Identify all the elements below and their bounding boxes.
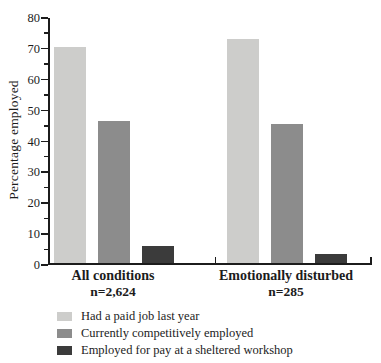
y-axis-label-20: 20 bbox=[6, 196, 40, 210]
y-axis-tick-30 bbox=[41, 171, 48, 173]
y-axis-tick-35 bbox=[44, 156, 48, 158]
legend-label: Had a paid job last year bbox=[81, 309, 199, 324]
bar-emotionally-disturbed-currently-competitively-employed bbox=[271, 124, 303, 263]
bar-emotionally-disturbed-employed-for-pay-at-a-sheltered-workshop bbox=[315, 254, 347, 263]
x-category-all-conditions: All conditions n=2,624 bbox=[72, 268, 155, 299]
category-n-label: n=285 bbox=[219, 284, 353, 299]
y-axis-label-30: 30 bbox=[6, 165, 40, 179]
y-axis-tick-10 bbox=[41, 233, 48, 235]
y-axis-tick-65 bbox=[44, 63, 48, 65]
legend-swatch-icon bbox=[57, 329, 72, 338]
legend-label: Currently competitively employed bbox=[81, 326, 253, 341]
category-label: All conditions bbox=[72, 268, 155, 284]
y-axis-tick-70 bbox=[41, 48, 48, 50]
y-axis-tick-60 bbox=[41, 79, 48, 81]
y-axis-tick-75 bbox=[44, 32, 48, 34]
y-axis-tick-40 bbox=[41, 141, 48, 143]
y-axis-label-40: 40 bbox=[6, 135, 40, 149]
y-axis-tick-5 bbox=[44, 249, 48, 251]
bar-emotionally-disturbed-had-a-paid-job-last-year bbox=[227, 39, 259, 263]
y-axis-label-10: 10 bbox=[6, 227, 40, 241]
bar-all-conditions-had-a-paid-job-last-year bbox=[54, 47, 86, 263]
plot-area: 01020304050607080 bbox=[48, 18, 372, 265]
category-n-label: n=2,624 bbox=[72, 284, 155, 299]
x-axis-end-tick bbox=[370, 257, 372, 263]
y-axis-label-50: 50 bbox=[6, 104, 40, 118]
y-axis-label-0: 0 bbox=[6, 258, 40, 272]
y-axis-tick-45 bbox=[44, 125, 48, 127]
y-axis-label-60: 60 bbox=[6, 73, 40, 87]
legend-swatch-icon bbox=[57, 312, 72, 321]
legend-swatch-icon bbox=[57, 346, 72, 355]
legend-item: Had a paid job last year bbox=[57, 308, 293, 324]
x-axis-divider-tick bbox=[215, 257, 217, 263]
legend-label: Employed for pay at a sheltered workshop bbox=[81, 343, 293, 358]
y-axis-tick-0 bbox=[41, 264, 48, 266]
bar-chart: Percentage employed 01020304050607080 Al… bbox=[0, 0, 381, 363]
legend-item: Currently competitively employed bbox=[57, 325, 293, 341]
y-axis-label-80: 80 bbox=[6, 11, 40, 25]
legend-item: Employed for pay at a sheltered workshop bbox=[57, 342, 293, 358]
bar-all-conditions-currently-competitively-employed bbox=[98, 121, 130, 263]
y-axis-tick-20 bbox=[41, 202, 48, 204]
x-axis-line bbox=[48, 263, 372, 265]
bar-all-conditions-employed-for-pay-at-a-sheltered-workshop bbox=[142, 246, 174, 263]
y-axis-tick-50 bbox=[41, 110, 48, 112]
x-category-emotionally-disturbed: Emotionally disturbed n=285 bbox=[219, 268, 353, 299]
y-axis-tick-15 bbox=[44, 218, 48, 220]
y-axis-label-70: 70 bbox=[6, 42, 40, 56]
legend: Had a paid job last year Currently compe… bbox=[57, 308, 293, 359]
y-axis-tick-55 bbox=[44, 94, 48, 96]
y-axis-tick-25 bbox=[44, 187, 48, 189]
y-axis-tick-80 bbox=[41, 17, 48, 19]
category-label: Emotionally disturbed bbox=[219, 268, 353, 284]
